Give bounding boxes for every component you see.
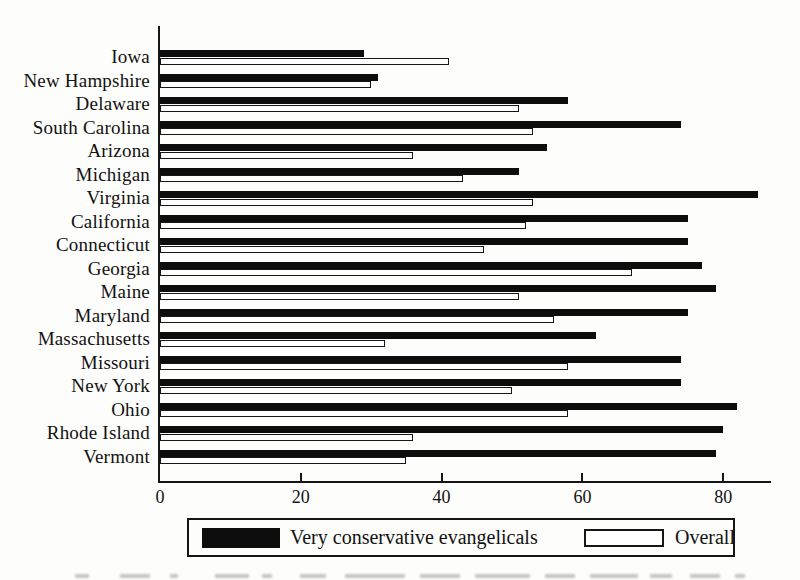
y-tick-label-maryland: Maryland xyxy=(0,305,150,327)
bar-very-conservative-evangelicals-virginia xyxy=(160,191,758,198)
y-tick-label-south-carolina: South Carolina xyxy=(0,117,150,139)
x-tick-mark-60 xyxy=(581,473,583,481)
y-tick-label-ohio: Ohio xyxy=(0,399,150,421)
bar-overall-massachusetts xyxy=(160,340,385,347)
bar-overall-ohio xyxy=(160,410,568,417)
y-tick-label-maine: Maine xyxy=(0,281,150,303)
legend-label-overall: Overall xyxy=(675,520,735,555)
y-tick-label-massachusetts: Massachusetts xyxy=(0,328,150,350)
x-tick-label-60: 60 xyxy=(560,486,604,508)
bar-very-conservative-evangelicals-arizona xyxy=(160,144,547,151)
bar-overall-virginia xyxy=(160,199,533,206)
bar-overall-new-hampshire xyxy=(160,81,371,88)
bar-overall-new-york xyxy=(160,387,512,394)
bar-very-conservative-evangelicals-south-carolina xyxy=(160,121,681,128)
bar-very-conservative-evangelicals-california xyxy=(160,215,688,222)
x-tick-mark-20 xyxy=(300,473,302,481)
figure: IowaNew HampshireDelawareSouth CarolinaA… xyxy=(0,0,800,580)
y-tick-label-missouri: Missouri xyxy=(0,352,150,374)
bar-overall-maryland xyxy=(160,316,554,323)
bar-very-conservative-evangelicals-vermont xyxy=(160,450,716,457)
y-tick-label-rhode-island: Rhode Island xyxy=(0,422,150,444)
cropped-caption-fragment xyxy=(0,571,800,580)
y-tick-label-georgia: Georgia xyxy=(0,258,150,280)
bar-very-conservative-evangelicals-maryland xyxy=(160,309,688,316)
y-tick-label-arizona: Arizona xyxy=(0,140,150,162)
bar-very-conservative-evangelicals-connecticut xyxy=(160,238,688,245)
y-tick-label-virginia: Virginia xyxy=(0,187,150,209)
y-tick-label-new-york: New York xyxy=(0,375,150,397)
y-tick-label-new-hampshire: New Hampshire xyxy=(0,70,150,92)
x-tick-mark-80 xyxy=(722,473,724,481)
x-tick-label-80: 80 xyxy=(701,486,745,508)
bar-very-conservative-evangelicals-georgia xyxy=(160,262,702,269)
bar-overall-missouri xyxy=(160,363,568,370)
bar-overall-south-carolina xyxy=(160,128,533,135)
bar-overall-iowa xyxy=(160,58,449,65)
bar-overall-maine xyxy=(160,293,519,300)
legend-label-very-conservative-evangelicals: Very conservative evangelicals xyxy=(290,520,538,555)
bar-very-conservative-evangelicals-michigan xyxy=(160,168,519,175)
bar-overall-georgia xyxy=(160,269,632,276)
bar-overall-rhode-island xyxy=(160,434,413,441)
bar-very-conservative-evangelicals-delaware xyxy=(160,97,568,104)
bar-overall-michigan xyxy=(160,175,463,182)
y-tick-label-california: California xyxy=(0,211,150,233)
bar-very-conservative-evangelicals-missouri xyxy=(160,356,681,363)
bar-chart: IowaNew HampshireDelawareSouth CarolinaA… xyxy=(0,0,800,512)
bar-overall-california xyxy=(160,222,526,229)
y-tick-label-delaware: Delaware xyxy=(0,93,150,115)
legend: Very conservative evangelicals Overall xyxy=(187,518,735,557)
x-tick-label-40: 40 xyxy=(420,486,464,508)
bar-overall-arizona xyxy=(160,152,413,159)
y-tick-label-vermont: Vermont xyxy=(0,446,150,468)
bar-overall-vermont xyxy=(160,457,406,464)
x-tick-label-0: 0 xyxy=(138,486,182,508)
y-tick-label-connecticut: Connecticut xyxy=(0,234,150,256)
bar-very-conservative-evangelicals-new-hampshire xyxy=(160,74,378,81)
bar-very-conservative-evangelicals-maine xyxy=(160,285,716,292)
y-tick-label-michigan: Michigan xyxy=(0,164,150,186)
bar-very-conservative-evangelicals-new-york xyxy=(160,379,681,386)
bar-very-conservative-evangelicals-massachusetts xyxy=(160,332,596,339)
bar-very-conservative-evangelicals-ohio xyxy=(160,403,737,410)
legend-swatch-overall xyxy=(584,529,664,547)
bar-overall-delaware xyxy=(160,105,519,112)
bar-overall-connecticut xyxy=(160,246,484,253)
x-axis-line xyxy=(158,481,771,483)
y-tick-label-iowa: Iowa xyxy=(0,46,150,68)
legend-swatch-very-conservative-evangelicals xyxy=(202,528,280,548)
bar-very-conservative-evangelicals-iowa xyxy=(160,50,364,57)
bar-very-conservative-evangelicals-rhode-island xyxy=(160,426,723,433)
x-tick-mark-40 xyxy=(441,473,443,481)
x-tick-label-20: 20 xyxy=(279,486,323,508)
